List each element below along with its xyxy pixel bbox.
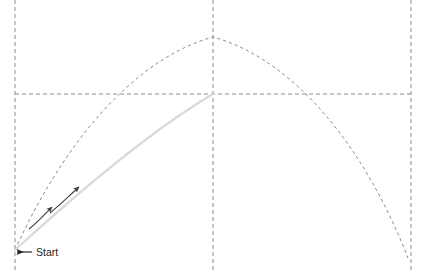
projectile-trajectory-diagram: Start (0, 0, 423, 273)
actual-trajectory-curve (15, 94, 213, 250)
diagram-canvas: Start (0, 0, 423, 273)
start-callout-group: Start (17, 246, 58, 258)
direction-arrows-group (29, 187, 79, 229)
start-label: Start (36, 246, 58, 258)
reference-parabola-curve (15, 37, 408, 258)
guide-lines-group (15, 0, 411, 273)
direction-arrow-2-icon (50, 187, 79, 213)
